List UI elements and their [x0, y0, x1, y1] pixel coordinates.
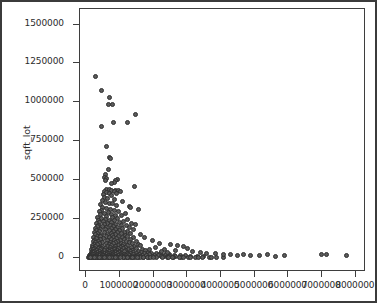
scatter-point: [257, 253, 262, 258]
scatter-points-layer: [80, 9, 364, 270]
y-tick-label: 0: [58, 252, 64, 261]
y-tick-label: 1000000: [25, 96, 64, 105]
scatter-point: [198, 250, 203, 255]
scatter-point: [248, 253, 253, 258]
scatter-point: [324, 252, 329, 257]
scatter-point: [128, 205, 133, 210]
scatter-point: [150, 238, 155, 243]
scatter-point: [114, 191, 119, 196]
scatter-point: [282, 253, 287, 258]
scatter-point: [141, 255, 146, 260]
scatter-point: [108, 156, 113, 161]
y-tick-label: 1500000: [25, 19, 64, 28]
x-tick-mark: [321, 271, 322, 277]
scatter-point: [93, 74, 98, 79]
figure-container: sqft_lot 0250000500000750000100000012500…: [0, 0, 377, 303]
scatter-point: [153, 245, 158, 250]
scatter-point: [190, 249, 195, 254]
y-tick-label: 750000: [30, 135, 64, 144]
x-tick-mark: [220, 271, 221, 277]
scatter-point: [107, 95, 112, 100]
y-tick-label: 500000: [30, 174, 64, 183]
scatter-point: [200, 255, 205, 260]
scatter-point: [188, 255, 193, 260]
scatter-point: [99, 124, 104, 129]
x-tick-mark: [355, 271, 356, 277]
scatter-point: [160, 255, 165, 260]
y-tick-label: 250000: [30, 213, 64, 222]
scatter-point: [111, 120, 116, 125]
y-axis-label: sqft_lot: [12, 90, 22, 106]
scatter-point: [104, 144, 109, 149]
x-tick-mark: [153, 271, 154, 277]
scatter-point: [235, 253, 240, 258]
y-tick-label: 1250000: [25, 57, 64, 66]
scatter-point: [125, 120, 130, 125]
scatter-point: [344, 253, 349, 258]
x-tick-mark: [119, 271, 120, 277]
scatter-point: [110, 102, 115, 107]
scatter-point: [168, 242, 173, 247]
x-tick-label: 8000000: [336, 281, 375, 290]
scatter-point: [142, 235, 147, 240]
scatter-point: [241, 252, 246, 257]
x-tick-mark: [85, 271, 86, 277]
scatter-point: [106, 167, 111, 172]
x-tick-label: 0: [82, 281, 88, 290]
scatter-point: [103, 178, 108, 183]
x-tick-mark: [186, 271, 187, 277]
scatter-point: [133, 112, 138, 117]
scatter-point: [273, 254, 278, 259]
figure-canvas: sqft_lot 0250000500000750000100000012500…: [2, 2, 375, 301]
scatter-point: [109, 181, 114, 186]
scatter-point: [123, 211, 128, 216]
scatter-point: [209, 255, 214, 260]
scatter-point: [265, 252, 270, 257]
plot-area: [79, 8, 365, 271]
scatter-point: [177, 255, 182, 260]
scatter-point: [120, 199, 125, 204]
scatter-point: [221, 252, 226, 257]
scatter-point: [157, 241, 162, 246]
scatter-point: [181, 255, 186, 260]
scatter-point: [136, 207, 141, 212]
scatter-point: [173, 248, 178, 253]
scatter-point: [159, 249, 164, 254]
scatter-point: [132, 184, 137, 189]
scatter-point: [118, 189, 123, 194]
scatter-point: [99, 88, 104, 93]
x-tick-mark: [254, 271, 255, 277]
x-tick-mark: [287, 271, 288, 277]
scatter-point: [228, 252, 233, 257]
